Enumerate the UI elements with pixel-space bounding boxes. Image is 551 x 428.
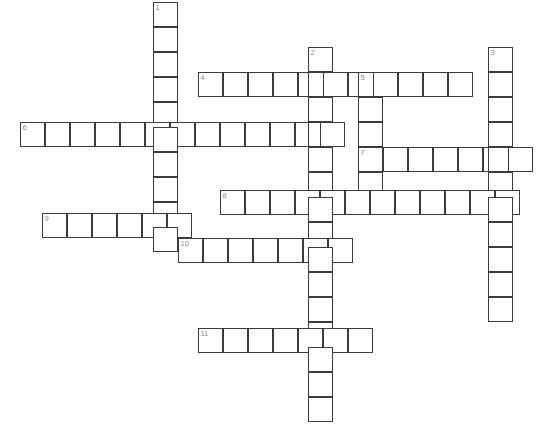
cell-number-7: 7 — [361, 148, 365, 157]
crossword-cell[interactable] — [408, 147, 433, 172]
crossword-cell[interactable] — [398, 72, 423, 97]
cell-number-1: 1 — [156, 3, 160, 12]
cell-number-10: 10 — [181, 239, 189, 248]
crossword-cell[interactable] — [488, 247, 513, 272]
crossword-cell[interactable] — [488, 222, 513, 247]
crossword-cell[interactable]: 7 — [358, 147, 383, 172]
crossword-grid[interactable]: 1234567891011 — [0, 0, 551, 428]
crossword-cell[interactable] — [270, 190, 295, 215]
crossword-cell[interactable] — [92, 213, 117, 238]
crossword-cell[interactable] — [433, 147, 458, 172]
crossword-cell[interactable] — [308, 397, 333, 422]
crossword-cell[interactable]: 1 — [153, 2, 178, 27]
crossword-cell[interactable] — [308, 297, 333, 322]
crossword-cell[interactable] — [488, 197, 513, 222]
crossword-cell[interactable] — [67, 213, 92, 238]
crossword-cell[interactable] — [195, 122, 220, 147]
crossword-cell[interactable]: 8 — [220, 190, 245, 215]
crossword-cell[interactable] — [228, 238, 253, 263]
crossword-cell[interactable] — [308, 197, 333, 222]
crossword-cell[interactable] — [358, 97, 383, 122]
crossword-cell[interactable]: 11 — [198, 328, 223, 353]
crossword-cell[interactable] — [245, 122, 270, 147]
crossword-cell[interactable] — [273, 328, 298, 353]
crossword-cell[interactable]: 9 — [42, 213, 67, 238]
crossword-cell[interactable] — [320, 122, 345, 147]
crossword-cell[interactable] — [245, 190, 270, 215]
crossword-cell[interactable]: 4 — [198, 72, 223, 97]
crossword-cell[interactable] — [508, 147, 533, 172]
crossword-cell[interactable] — [308, 347, 333, 372]
crossword-cell[interactable] — [153, 52, 178, 77]
crossword-cell[interactable] — [323, 72, 348, 97]
crossword-cell[interactable] — [373, 72, 398, 97]
crossword-cell[interactable]: 3 — [488, 47, 513, 72]
cell-number-2: 2 — [311, 48, 315, 57]
crossword-cell[interactable] — [95, 122, 120, 147]
crossword-cell[interactable] — [70, 122, 95, 147]
cell-number-9: 9 — [45, 214, 49, 223]
crossword-puzzle: 1234567891011 — [0, 0, 551, 428]
crossword-cell[interactable] — [223, 72, 248, 97]
crossword-cell[interactable] — [273, 72, 298, 97]
crossword-cell[interactable] — [45, 122, 70, 147]
crossword-cell[interactable] — [423, 72, 448, 97]
crossword-cell[interactable] — [153, 27, 178, 52]
crossword-cell[interactable] — [488, 72, 513, 97]
crossword-cell[interactable] — [370, 190, 395, 215]
crossword-cell[interactable] — [253, 238, 278, 263]
cell-number-4: 4 — [201, 73, 205, 82]
crossword-cell[interactable] — [153, 177, 178, 202]
crossword-cell[interactable] — [270, 122, 295, 147]
crossword-cell[interactable] — [120, 122, 145, 147]
cell-number-8: 8 — [223, 191, 227, 200]
crossword-cell[interactable] — [308, 147, 333, 172]
crossword-cell[interactable] — [308, 372, 333, 397]
crossword-cell[interactable] — [488, 97, 513, 122]
crossword-cell[interactable] — [445, 190, 470, 215]
crossword-cell[interactable]: 6 — [20, 122, 45, 147]
crossword-cell[interactable] — [203, 238, 228, 263]
crossword-cell[interactable] — [153, 127, 178, 152]
cell-number-5: 5 — [361, 73, 365, 82]
crossword-cell[interactable] — [348, 328, 373, 353]
crossword-cell[interactable] — [488, 122, 513, 147]
crossword-cell[interactable] — [395, 190, 420, 215]
crossword-cell[interactable] — [153, 227, 178, 252]
crossword-cell[interactable] — [223, 328, 248, 353]
crossword-cell[interactable] — [488, 297, 513, 322]
crossword-cell[interactable] — [248, 328, 273, 353]
crossword-cell[interactable] — [458, 147, 483, 172]
cell-number-3: 3 — [491, 48, 495, 57]
crossword-cell[interactable] — [248, 72, 273, 97]
crossword-cell[interactable] — [153, 77, 178, 102]
crossword-cell[interactable]: 2 — [308, 47, 333, 72]
crossword-cell[interactable] — [308, 247, 333, 272]
crossword-cell[interactable] — [488, 272, 513, 297]
crossword-cell[interactable] — [383, 147, 408, 172]
crossword-cell[interactable] — [345, 190, 370, 215]
crossword-cell[interactable] — [278, 238, 303, 263]
crossword-cell[interactable]: 10 — [178, 238, 203, 263]
cell-number-11: 11 — [201, 329, 209, 338]
crossword-cell[interactable] — [308, 97, 333, 122]
crossword-cell[interactable] — [153, 152, 178, 177]
cell-number-6: 6 — [23, 123, 27, 132]
crossword-cell[interactable] — [308, 272, 333, 297]
crossword-cell[interactable] — [117, 213, 142, 238]
crossword-cell[interactable] — [420, 190, 445, 215]
crossword-cell[interactable] — [220, 122, 245, 147]
crossword-cell[interactable] — [448, 72, 473, 97]
crossword-cell[interactable] — [358, 122, 383, 147]
